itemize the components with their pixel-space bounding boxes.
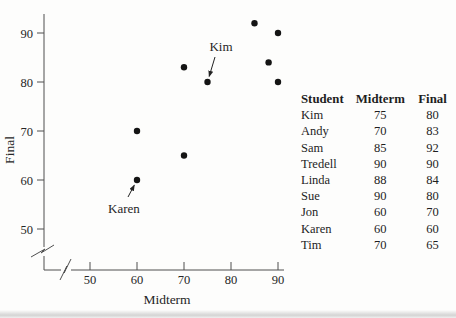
table-row: Tredell9090 xyxy=(296,156,456,172)
table-cell: 60 xyxy=(352,221,410,237)
table-cell: 85 xyxy=(352,140,410,156)
y-tick-label: 80 xyxy=(21,76,34,90)
table-cell: 75 xyxy=(352,107,410,123)
table-cell: Jon xyxy=(296,204,352,220)
annotation-arrow xyxy=(209,57,215,76)
data-point-jon xyxy=(134,128,140,134)
data-points xyxy=(134,20,281,183)
table-row: Sue9080 xyxy=(296,188,456,204)
table-cell: 70 xyxy=(409,204,456,220)
table-cell: 90 xyxy=(352,156,410,172)
data-point-kim xyxy=(204,79,210,85)
table-cell: Kim xyxy=(296,107,352,123)
table-cell: Sam xyxy=(296,140,352,156)
axis-ticks: 50607080905060708090 xyxy=(21,27,285,288)
annotation-arrow xyxy=(128,185,134,197)
scores-table: Student Midterm Final Kim7580Andy7083Sam… xyxy=(296,91,456,253)
annotations: KimKaren xyxy=(108,39,232,216)
data-point-sue xyxy=(275,79,281,85)
data-point-andy xyxy=(181,64,187,70)
table-cell: 70 xyxy=(352,123,410,139)
table-cell: Tredell xyxy=(296,156,352,172)
table-cell: Linda xyxy=(296,172,352,188)
x-tick-label: 50 xyxy=(84,273,97,287)
annotation-label: Kim xyxy=(209,39,232,54)
data-point-tredell xyxy=(275,30,281,36)
table-cell: 92 xyxy=(409,140,456,156)
y-axis-break xyxy=(31,245,54,257)
table-row: Andy7083 xyxy=(296,123,456,139)
table-cell: 70 xyxy=(352,237,410,253)
table-row: Sam8592 xyxy=(296,140,456,156)
table-row: Kim7580 xyxy=(296,107,456,123)
y-tick-label: 60 xyxy=(21,174,34,188)
x-tick-label: 80 xyxy=(225,273,238,287)
table-cell: 83 xyxy=(409,123,456,139)
data-point-tim xyxy=(181,152,187,158)
data-point-sam xyxy=(251,20,257,26)
annotation-label: Karen xyxy=(108,201,140,216)
table-cell: 60 xyxy=(352,204,410,220)
table-cell: Andy xyxy=(296,123,352,139)
x-tick-label: 60 xyxy=(131,273,144,287)
figure: 50607080905060708090 KimKaren Midterm Fi… xyxy=(0,0,456,318)
page-scan-shading xyxy=(0,310,456,318)
table-cell: 90 xyxy=(352,188,410,204)
table-cell: 65 xyxy=(409,237,456,253)
table-cell: Karen xyxy=(296,221,352,237)
table-row: Linda8884 xyxy=(296,172,456,188)
data-point-linda xyxy=(265,59,271,65)
table-header-student: Student xyxy=(296,91,352,107)
table-row: Tim7065 xyxy=(296,237,456,253)
table-header-midterm: Midterm xyxy=(352,91,410,107)
y-tick-label: 90 xyxy=(21,27,34,41)
table-cell: 60 xyxy=(409,221,456,237)
table-cell: 80 xyxy=(409,107,456,123)
data-point-karen xyxy=(134,177,140,183)
table-cell: 88 xyxy=(352,172,410,188)
table-cell: Sue xyxy=(296,188,352,204)
y-tick-label: 70 xyxy=(21,125,34,139)
y-tick-label: 50 xyxy=(21,223,34,237)
x-axis-title: Midterm xyxy=(143,292,191,307)
table-cell: 90 xyxy=(409,156,456,172)
table-cell: Tim xyxy=(296,237,352,253)
table-cell: 84 xyxy=(409,172,456,188)
table-header-row: Student Midterm Final xyxy=(296,91,456,107)
table-row: Jon6070 xyxy=(296,204,456,220)
table-row: Karen6060 xyxy=(296,221,456,237)
table-header-final: Final xyxy=(409,91,456,107)
y-axis-title: Final xyxy=(2,136,17,164)
x-tick-label: 90 xyxy=(272,273,285,287)
table-cell: 80 xyxy=(409,188,456,204)
x-axis-break xyxy=(60,259,71,280)
x-tick-label: 70 xyxy=(178,273,191,287)
